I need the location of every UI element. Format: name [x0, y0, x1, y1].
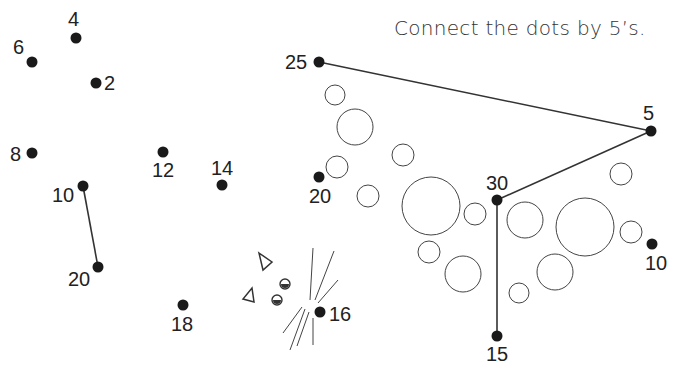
- bubble-circle: [464, 203, 486, 225]
- whisker-line: [283, 307, 302, 333]
- left-dot-label-4: 4: [68, 8, 79, 30]
- right-dot-label-25: 25: [285, 51, 307, 73]
- right-dot-10[interactable]: [647, 239, 658, 250]
- left-dot-2[interactable]: [91, 78, 102, 89]
- right-dot-label-15: 15: [486, 343, 508, 365]
- bubble-circle: [620, 221, 642, 243]
- right-dot-label-10: 10: [645, 252, 667, 274]
- left-dot-label-20: 20: [68, 268, 90, 290]
- bubble-circle: [445, 256, 481, 292]
- connector-lines: [83, 62, 651, 336]
- ear-triangle-icon: [243, 288, 254, 302]
- right-dot-30[interactable]: [492, 195, 503, 206]
- left-dot-label-12: 12: [152, 159, 174, 181]
- left-dot-label-6: 6: [13, 36, 24, 58]
- bubble-circle: [357, 185, 379, 207]
- left-dot-label-2: 2: [104, 72, 115, 94]
- bubble-circle: [325, 85, 345, 105]
- bubble-circle: [326, 156, 348, 178]
- whisker-line: [310, 248, 313, 300]
- bubble-circle: [337, 109, 373, 145]
- left-dot-16[interactable]: [315, 307, 326, 318]
- right-dot-label-30: 30: [486, 172, 508, 194]
- whisker-line: [297, 312, 309, 346]
- left-line-10-to-20: [83, 186, 98, 267]
- left-dot-8[interactable]: [27, 148, 38, 159]
- bubble-circles: [325, 85, 642, 303]
- right-dot-5[interactable]: [646, 126, 657, 137]
- right-dot-label-5: 5: [643, 102, 654, 124]
- left-dot-4[interactable]: [71, 33, 82, 44]
- left-dot-12[interactable]: [158, 147, 169, 158]
- numbered-dots: 246810121416182051015202530: [10, 8, 667, 365]
- left-dot-14[interactable]: [217, 180, 228, 191]
- left-dot-10[interactable]: [78, 181, 89, 192]
- left-dot-label-14: 14: [211, 157, 233, 179]
- whisker-line: [315, 251, 334, 300]
- right-dot-label-20: 20: [309, 185, 331, 207]
- left-dot-6[interactable]: [27, 57, 38, 68]
- bubble-circle: [509, 283, 529, 303]
- right-dot-20[interactable]: [314, 172, 325, 183]
- bubble-circle: [537, 254, 573, 290]
- bubble-circle: [402, 177, 460, 235]
- left-dot-label-10: 10: [52, 184, 74, 206]
- bubble-circle: [610, 163, 632, 185]
- bubble-circle: [418, 241, 440, 263]
- left-dot-20[interactable]: [93, 262, 104, 273]
- left-dot-label-8: 8: [10, 143, 21, 165]
- bubble-circle: [556, 198, 614, 256]
- bubble-circle: [392, 144, 414, 166]
- left-dot-label-18: 18: [171, 313, 193, 335]
- right-dot-25[interactable]: [314, 57, 325, 68]
- cat-face-decoration: [243, 248, 338, 350]
- dot-puzzle-canvas: 246810121416182051015202530: [0, 0, 681, 378]
- left-dot-18[interactable]: [178, 300, 189, 311]
- bubble-circle: [507, 202, 543, 238]
- ear-triangle-icon: [259, 253, 272, 270]
- left-dot-label-16: 16: [329, 303, 351, 325]
- right-dot-15[interactable]: [492, 331, 503, 342]
- right-line-25-to-5: [319, 62, 651, 131]
